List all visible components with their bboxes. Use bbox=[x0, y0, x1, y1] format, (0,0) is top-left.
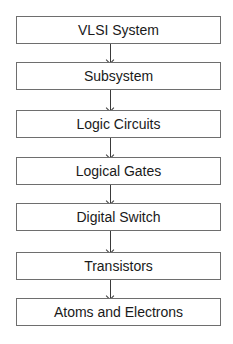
node-label: VLSI System bbox=[78, 22, 159, 38]
node-digital-switch: Digital Switch bbox=[16, 203, 221, 231]
arrow-down-icon bbox=[110, 44, 111, 62]
node-transistors: Transistors bbox=[16, 252, 221, 280]
node-label: Subsystem bbox=[84, 68, 153, 84]
node-label: Digital Switch bbox=[76, 209, 160, 225]
node-label: Logical Gates bbox=[76, 163, 162, 179]
node-logical-gates: Logical Gates bbox=[16, 157, 221, 185]
arrow-down-icon bbox=[110, 231, 111, 252]
node-subsystem: Subsystem bbox=[16, 62, 221, 90]
node-atoms-and-electrons: Atoms and Electrons bbox=[16, 298, 221, 326]
node-label: Logic Circuits bbox=[76, 116, 160, 132]
arrow-down-icon bbox=[110, 280, 111, 298]
node-vlsi-system: VLSI System bbox=[16, 16, 221, 44]
node-label: Atoms and Electrons bbox=[54, 304, 183, 320]
arrow-down-icon bbox=[110, 90, 111, 110]
node-logic-circuits: Logic Circuits bbox=[16, 110, 221, 138]
arrow-down-icon bbox=[110, 185, 111, 203]
node-label: Transistors bbox=[84, 258, 153, 274]
arrow-down-icon bbox=[110, 138, 111, 157]
